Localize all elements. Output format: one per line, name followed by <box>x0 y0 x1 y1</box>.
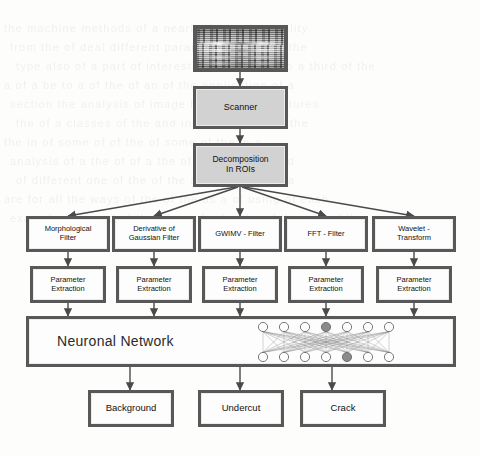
node-filter-wavelet-transform[interactable]: Wavelet - Transform <box>372 216 456 252</box>
param-5-label-line2: Extraction <box>395 285 432 294</box>
network-node <box>384 322 393 331</box>
node-parameter-extraction-5[interactable]: Parameter Extraction <box>376 266 452 303</box>
arrow-decomposition-to-filter-4 <box>242 187 326 216</box>
param-1-label-line2: Extraction <box>49 285 86 294</box>
neural-network-glyph <box>256 320 396 364</box>
node-parameter-extraction-2[interactable]: Parameter Extraction <box>116 266 192 303</box>
node-filter-gwimv[interactable]: GWIMV - Filter <box>198 216 282 252</box>
node-parameter-extraction-3[interactable]: Parameter Extraction <box>202 266 278 303</box>
param-3-label-line2: Extraction <box>221 285 258 294</box>
network-node <box>300 352 309 361</box>
output-3-label: Crack <box>329 403 358 414</box>
node-decomposition[interactable]: Decomposition In ROIs <box>193 143 288 187</box>
node-output-undercut[interactable]: Undercut <box>198 390 284 427</box>
network-node-highlighted <box>342 352 351 361</box>
node-scanner-label: Scanner <box>222 102 260 112</box>
node-parameter-extraction-4[interactable]: Parameter Extraction <box>288 266 364 303</box>
flowchart-canvas: Scanner Decomposition In ROIs Morphologi… <box>0 0 480 456</box>
arrow-decomposition-to-filter-5 <box>244 187 414 216</box>
network-node <box>279 352 288 361</box>
filter-3-label-line1: GWIMV - Filter <box>213 230 267 239</box>
network-node <box>342 322 351 331</box>
network-node <box>258 322 267 331</box>
param-2-label-line2: Extraction <box>135 285 172 294</box>
node-filter-fft[interactable]: FFT - Filter <box>284 216 368 252</box>
network-node <box>363 322 372 331</box>
filter-2-label-line2: Gaussian Filter <box>127 234 181 243</box>
filter-5-label-line2: Transform <box>395 234 433 243</box>
node-output-crack[interactable]: Crack <box>300 390 386 427</box>
filter-1-label-line2: Filter <box>58 234 79 243</box>
network-node <box>384 352 393 361</box>
arrow-decomposition-to-filter-2 <box>154 187 238 216</box>
output-1-label: Background <box>104 403 159 414</box>
network-node <box>321 352 330 361</box>
output-2-label: Undercut <box>220 403 263 414</box>
node-neuronal-network-label: Neuronal Network <box>29 333 176 349</box>
arrow-decomposition-to-filter-1 <box>68 187 236 216</box>
radiographic-weld-image <box>193 25 288 72</box>
network-node-highlighted <box>321 322 330 331</box>
node-output-background[interactable]: Background <box>88 390 174 427</box>
filter-4-label-line1: FFT - Filter <box>306 230 347 239</box>
network-node <box>363 352 372 361</box>
node-scanner[interactable]: Scanner <box>193 86 288 129</box>
param-4-label-line2: Extraction <box>307 285 344 294</box>
network-node <box>300 322 309 331</box>
node-decomposition-label-line2: In ROIs <box>224 165 257 175</box>
network-node <box>279 322 288 331</box>
node-filter-derivative-of-gaussian[interactable]: Derivative of Gaussian Filter <box>112 216 196 252</box>
node-parameter-extraction-1[interactable]: Parameter Extraction <box>30 266 106 303</box>
node-filter-morphological[interactable]: Morphological Filter <box>26 216 110 252</box>
network-node <box>258 352 267 361</box>
